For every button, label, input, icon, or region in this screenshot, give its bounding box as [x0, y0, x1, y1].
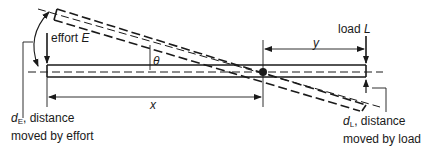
x-label: x: [150, 98, 156, 112]
load-label: load L: [338, 22, 371, 36]
dE-leader-line: [23, 42, 33, 118]
dE-label: dE, distance moved by effort: [11, 111, 94, 143]
tilted-lever-beam: [38, 9, 380, 111]
y-label: y: [313, 36, 319, 50]
dL-label: dL, distance moved by load: [343, 114, 421, 146]
horizontal-lever-beam: [47, 65, 366, 77]
effort-label: effort E: [51, 31, 89, 45]
dL-leader-line: [372, 88, 386, 112]
theta-label: θ: [153, 54, 160, 68]
